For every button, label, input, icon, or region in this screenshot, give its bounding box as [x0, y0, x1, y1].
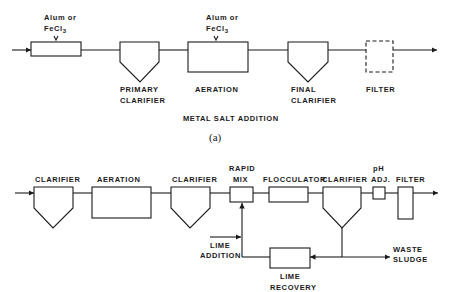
- ph-adj-label-2: ADJ.: [371, 175, 391, 184]
- chemical-2-line2: FeCl3: [206, 24, 229, 34]
- ph-adjust: [373, 187, 385, 199]
- diagram-a-title: METAL SALT ADDITION: [183, 114, 279, 123]
- filter-label: FILTER: [366, 85, 395, 94]
- lime-addition-label-2: ADDITION: [200, 251, 241, 260]
- primary-clarifier-label-2: CLARIFIER: [120, 96, 165, 105]
- final-clarifier: [288, 42, 328, 82]
- chemical-1-arrow: [54, 36, 58, 40]
- lime-recovery: [270, 248, 310, 268]
- diagram-a: Alum or FeCl3 PRIMARY CLARIFIER AERATION…: [12, 13, 437, 144]
- waste-label-2: SLUDGE: [393, 255, 428, 264]
- rapid-mix-label-1: RAPID: [229, 164, 255, 173]
- aeration-label-b: AERATION: [97, 175, 140, 184]
- diagram-a-caption: (a): [209, 131, 222, 144]
- final-clarifier-label-2: CLARIFIER: [291, 96, 336, 105]
- chemical-1-line1: Alum or: [44, 13, 77, 22]
- filter-b-label: FILTER: [396, 175, 425, 184]
- flocculator-label: FLOCCULATOR: [263, 175, 326, 184]
- aeration-label: AERATION: [195, 85, 238, 94]
- filter-optional: [366, 41, 393, 72]
- final-clarifier-label-1: FINAL: [291, 85, 316, 94]
- diagram-b: CLARIFIER AERATION CLARIFIER RAPID MIX F…: [15, 164, 438, 292]
- lime-addition-label-1: LIME: [210, 241, 230, 250]
- clarifier-2: [171, 187, 210, 228]
- chemical-2-arrow: [214, 36, 218, 40]
- filter-b: [398, 187, 413, 219]
- chemical-1-line2: FeCl3: [44, 24, 67, 34]
- primary-clarifier-label-1: PRIMARY: [120, 85, 159, 94]
- clarifier-1-label: CLARIFIER: [35, 175, 80, 184]
- chemical-2-line1: Alum or: [206, 13, 239, 22]
- clarifier-1: [34, 187, 73, 228]
- aeration-tank: [188, 42, 248, 72]
- lime-recovery-label-1: LIME: [280, 272, 300, 281]
- mixer-box: [31, 42, 81, 56]
- clarifier-2-label: CLARIFIER: [172, 175, 217, 184]
- flocculator: [269, 187, 308, 202]
- primary-clarifier: [120, 42, 159, 82]
- rapid-mix: [230, 187, 253, 202]
- ph-adj-label-1: pH: [373, 164, 384, 173]
- clarifier-3: [323, 187, 361, 228]
- waste-label-1: WASTE: [393, 245, 423, 254]
- aeration-tank-b: [92, 187, 151, 218]
- lime-recovery-label-2: RECOVERY: [270, 283, 317, 292]
- clarifier-3-label: CLARIFIER: [322, 175, 367, 184]
- rapid-mix-label-2: MIX: [233, 175, 248, 184]
